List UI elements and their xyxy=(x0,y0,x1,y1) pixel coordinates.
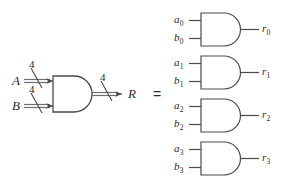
bus-width-slash-b xyxy=(31,93,42,113)
gate2-input-a-subscript: 2 xyxy=(180,105,184,114)
gate3-input-a-base: a xyxy=(174,142,180,154)
input-label-b: B xyxy=(12,99,20,112)
output-label-r: R xyxy=(128,87,136,100)
gate0-input-a-label: a0 xyxy=(174,14,183,25)
gate1-input-a-label: a1 xyxy=(174,57,183,68)
logic-diagram-canvas: 4 4 4 A B R = a0 b0 r0 a1 b1 r1 a2 b2 r2… xyxy=(0,0,287,186)
gate1-output-subscript: 1 xyxy=(267,71,271,80)
bus-width-label-b: 4 xyxy=(29,84,35,95)
bus-width-label-r: 4 xyxy=(100,72,106,83)
and-gate-body-bit2 xyxy=(201,99,241,132)
and-gate-body-bit3 xyxy=(201,142,241,175)
gate2-input-b-subscript: 2 xyxy=(180,123,184,132)
gate3-input-b-base: b xyxy=(174,160,180,172)
gate0-output-label: r0 xyxy=(262,23,270,34)
gate1-input-a-base: a xyxy=(174,56,180,68)
gate1-output-base: r xyxy=(262,65,266,77)
gate1-input-a-subscript: 1 xyxy=(180,62,184,71)
bus-width-label-a: 4 xyxy=(29,59,35,70)
gate3-output-base: r xyxy=(262,151,266,163)
gate2-output-label: r2 xyxy=(262,109,270,120)
gate0-input-b-base: b xyxy=(174,31,180,43)
bus-width-slash-r xyxy=(101,81,112,101)
gate2-input-a-label: a2 xyxy=(174,100,183,111)
gate0-output-subscript: 0 xyxy=(267,28,271,37)
and-gate-body-bit1 xyxy=(201,56,241,89)
gate0-output-base: r xyxy=(262,22,266,34)
gate0-input-b-label: b0 xyxy=(174,32,183,43)
gate0-input-a-subscript: 0 xyxy=(180,19,184,28)
and-gate-body-bit0 xyxy=(201,13,241,46)
gate1-output-label: r1 xyxy=(262,66,270,77)
gate3-input-a-subscript: 3 xyxy=(180,148,184,157)
gate1-input-b-subscript: 1 xyxy=(180,80,184,89)
gate3-input-b-subscript: 3 xyxy=(180,166,184,175)
equals-symbol: = xyxy=(153,87,161,101)
gate3-input-b-label: b3 xyxy=(174,161,183,172)
diagram-vector-layer xyxy=(0,0,287,186)
gate2-output-subscript: 2 xyxy=(267,114,271,123)
and-gate-body-bus xyxy=(53,76,92,112)
input-label-a: A xyxy=(12,74,20,87)
gate1-input-b-label: b1 xyxy=(174,75,183,86)
gate2-input-b-label: b2 xyxy=(174,118,183,129)
gate2-input-b-base: b xyxy=(174,117,180,129)
gate3-output-label: r3 xyxy=(262,152,270,163)
gate3-input-a-label: a3 xyxy=(174,143,183,154)
gate3-output-subscript: 3 xyxy=(267,157,271,166)
gate0-input-a-base: a xyxy=(174,13,180,25)
gate0-input-b-subscript: 0 xyxy=(180,37,184,46)
gate2-output-base: r xyxy=(262,108,266,120)
gate2-input-a-base: a xyxy=(174,99,180,111)
gate1-input-b-base: b xyxy=(174,74,180,86)
